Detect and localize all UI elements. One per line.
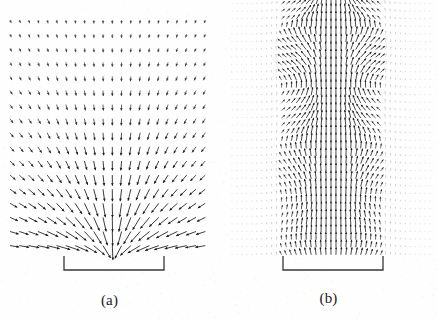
arrow-layer-b [231, 0, 430, 255]
panel-b-caption: (b) [219, 290, 438, 307]
arrow-layer-a [9, 20, 206, 260]
vector-field-plot-a [0, 0, 219, 319]
panel-a: (a) [0, 0, 219, 319]
aperture-bracket-a [64, 256, 164, 270]
panel-b [219, 0, 438, 319]
aperture-bracket-b [283, 256, 383, 270]
figure-container: (a) (b) [0, 0, 438, 319]
panel-a-caption: (a) [0, 292, 219, 309]
vector-field-plot-b [219, 0, 438, 319]
